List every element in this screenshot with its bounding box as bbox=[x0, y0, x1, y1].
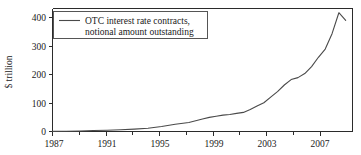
x-tick-label-1991: 1991 bbox=[98, 139, 117, 149]
legend-label-line1: OTC interest rate contracts, bbox=[85, 16, 190, 26]
y-axis-ticks bbox=[49, 18, 53, 132]
legend-label-line2: notional amount outstanding bbox=[85, 27, 194, 37]
y-tick-label-100: 100 bbox=[32, 99, 47, 109]
y-axis-title: $ trillion bbox=[4, 55, 14, 88]
x-axis-labels: 1987 1991 1995 1999 2003 2007 bbox=[45, 139, 330, 149]
x-tick-label-2007: 2007 bbox=[311, 139, 330, 149]
y-tick-label-300: 300 bbox=[32, 42, 47, 52]
y-axis-labels: 0 100 200 300 400 bbox=[32, 13, 47, 137]
y-tick-label-400: 400 bbox=[32, 13, 47, 23]
y-tick-label-200: 200 bbox=[32, 70, 47, 80]
x-tick-label-2003: 2003 bbox=[258, 139, 277, 149]
x-tick-label-1987: 1987 bbox=[45, 139, 64, 149]
x-tick-label-1999: 1999 bbox=[205, 139, 224, 149]
y-tick-label-0: 0 bbox=[41, 127, 46, 137]
chart-container: 0 100 200 300 400 $ trillion 1987 bbox=[0, 0, 361, 155]
x-tick-label-1995: 1995 bbox=[151, 139, 170, 149]
chart-legend: OTC interest rate contracts, notional am… bbox=[54, 12, 208, 39]
line-chart: 0 100 200 300 400 $ trillion 1987 bbox=[0, 0, 361, 155]
